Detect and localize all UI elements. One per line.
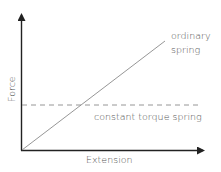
diagram-canvas: ordinary spring constant torque spring E… xyxy=(0,0,221,172)
ordinary-spring-label-line2: spring xyxy=(171,44,200,55)
x-axis-label: Extension xyxy=(86,154,133,165)
y-axis-label: Force xyxy=(6,76,17,102)
constant-torque-spring-label: constant torque spring xyxy=(94,111,202,122)
spring-force-diagram: ordinary spring constant torque spring E… xyxy=(0,0,221,172)
ordinary-spring-line xyxy=(22,41,165,150)
ordinary-spring-label-line1: ordinary xyxy=(171,30,211,41)
